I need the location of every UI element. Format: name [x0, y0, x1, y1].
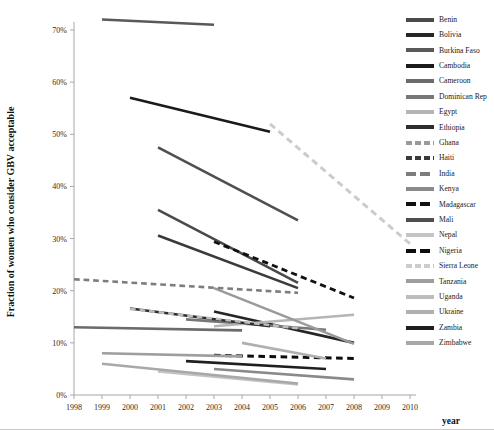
- legend-item-uganda[interactable]: Uganda: [406, 289, 492, 304]
- x-tick-label: 2000: [122, 403, 138, 412]
- x-tick-label: 2004: [234, 403, 250, 412]
- legend-item-haiti[interactable]: Haiti: [406, 151, 492, 166]
- legend-item-nepal[interactable]: Nepal: [406, 227, 492, 242]
- y-tick-label: 30%: [52, 235, 67, 244]
- series-line-zambia: [186, 361, 326, 369]
- chart-legend: BeninBoliviaBurkina FasoCambodiaCameroon…: [406, 12, 492, 351]
- legend-item-cameroon[interactable]: Cameroon: [406, 74, 492, 89]
- legend-swatch-icon: [406, 141, 434, 145]
- series-line-cameroon: [74, 327, 242, 330]
- series-line-madagascar: [214, 242, 354, 298]
- legend-swatch-icon: [406, 202, 434, 206]
- legend-swatch-icon: [406, 33, 434, 37]
- legend-swatch-icon: [406, 233, 434, 237]
- x-tick-label: 2001: [150, 403, 166, 412]
- x-tick-label: 2005: [262, 403, 278, 412]
- x-tick-label: 2003: [206, 403, 222, 412]
- legend-label: Tanzania: [439, 278, 466, 286]
- legend-item-kenya[interactable]: Kenya: [406, 181, 492, 196]
- legend-item-burkina-faso[interactable]: Burkina Faso: [406, 43, 492, 58]
- legend-swatch-icon: [406, 249, 434, 253]
- series-line-haiti: [158, 235, 298, 288]
- x-tick-label: 1998: [66, 403, 82, 412]
- series-line-sierra-leone: [270, 124, 410, 244]
- legend-item-zimbabwe[interactable]: Zimbabwe: [406, 335, 492, 350]
- legend-item-benin[interactable]: Benin: [406, 12, 492, 27]
- series-line-india: [74, 279, 298, 293]
- legend-swatch-icon: [406, 218, 434, 222]
- y-tick-label: 10%: [52, 339, 67, 348]
- legend-label: Ghana: [439, 139, 459, 147]
- legend-item-ethiopia[interactable]: Ethiopia: [406, 120, 492, 135]
- legend-swatch-icon: [406, 264, 434, 268]
- series-line-mali: [158, 147, 298, 220]
- legend-item-dominican-rep[interactable]: Dominican Rep: [406, 89, 492, 104]
- legend-swatch-icon: [406, 125, 434, 129]
- y-tick-label: 0%: [56, 391, 67, 400]
- y-tick-label: 50%: [52, 130, 67, 139]
- legend-item-mali[interactable]: Mali: [406, 212, 492, 227]
- series-line-burkina-faso: [102, 20, 214, 25]
- x-axis: 1998199920002001200220032004200520062007…: [66, 395, 418, 412]
- legend-label: Mali: [439, 216, 453, 224]
- x-tick-label: 2007: [318, 403, 334, 412]
- legend-label: India: [439, 170, 455, 178]
- x-tick-label: 2010: [402, 403, 418, 412]
- legend-swatch-icon: [406, 18, 434, 22]
- x-tick-label: 2008: [346, 403, 362, 412]
- legend-label: Ukraine: [439, 308, 463, 316]
- series-lines: [74, 20, 410, 385]
- legend-swatch-icon: [406, 64, 434, 68]
- y-axis: 0%10%20%30%40%50%60%70%: [52, 22, 74, 400]
- y-tick-label: 60%: [52, 78, 67, 87]
- legend-label: Kenya: [439, 185, 459, 193]
- chart-figure: 0%10%20%30%40%50%60%70% 1998199920002001…: [0, 0, 494, 430]
- legend-label: Ethiopia: [439, 124, 465, 132]
- y-tick-label: 20%: [52, 287, 67, 296]
- legend-label: Cambodia: [439, 62, 470, 70]
- legend-item-ukraine[interactable]: Ukraine: [406, 304, 492, 319]
- legend-swatch-icon: [406, 326, 434, 330]
- legend-label: Zambia: [439, 324, 462, 332]
- legend-swatch-icon: [406, 48, 434, 52]
- legend-item-nigeria[interactable]: Nigeria: [406, 243, 492, 258]
- legend-swatch-icon: [406, 295, 434, 299]
- legend-item-cambodia[interactable]: Cambodia: [406, 58, 492, 73]
- legend-swatch-icon: [406, 79, 434, 83]
- legend-label: Benin: [439, 16, 457, 24]
- legend-label: Haiti: [439, 154, 454, 162]
- legend-swatch-icon: [406, 341, 434, 345]
- x-tick-label: 1999: [94, 403, 110, 412]
- legend-label: Bolivia: [439, 31, 461, 39]
- legend-item-bolivia[interactable]: Bolivia: [406, 27, 492, 42]
- legend-label: Madagascar: [439, 201, 476, 209]
- legend-label: Nepal: [439, 231, 457, 239]
- legend-label: Burkina Faso: [439, 47, 480, 55]
- legend-label: Egypt: [439, 108, 457, 116]
- legend-swatch-icon: [406, 95, 434, 99]
- x-axis-title: year: [442, 416, 461, 426]
- y-tick-label: 40%: [52, 182, 67, 191]
- legend-item-madagascar[interactable]: Madagascar: [406, 197, 492, 212]
- legend-label: Sierra Leone: [439, 262, 478, 270]
- series-line-cambodia: [130, 98, 270, 132]
- legend-swatch-icon: [406, 172, 434, 176]
- legend-swatch-icon: [406, 110, 434, 114]
- x-tick-label: 2006: [290, 403, 306, 412]
- legend-swatch-icon: [406, 279, 434, 283]
- legend-label: Zimbabwe: [439, 339, 471, 347]
- legend-swatch-icon: [406, 156, 434, 160]
- legend-item-tanzania[interactable]: Tanzania: [406, 274, 492, 289]
- y-tick-label: 70%: [52, 26, 67, 35]
- legend-label: Nigeria: [439, 247, 462, 255]
- legend-item-sierra-leone[interactable]: Sierra Leone: [406, 258, 492, 273]
- y-axis-title: Fraction of women who consider GBV accep…: [5, 106, 16, 317]
- legend-item-zambia[interactable]: Zambia: [406, 320, 492, 335]
- legend-item-ghana[interactable]: Ghana: [406, 135, 492, 150]
- legend-item-india[interactable]: India: [406, 166, 492, 181]
- legend-item-egypt[interactable]: Egypt: [406, 104, 492, 119]
- series-line-tanzania: [102, 353, 242, 356]
- x-tick-label: 2009: [374, 403, 390, 412]
- legend-label: Cameroon: [439, 77, 471, 85]
- legend-swatch-icon: [406, 310, 434, 314]
